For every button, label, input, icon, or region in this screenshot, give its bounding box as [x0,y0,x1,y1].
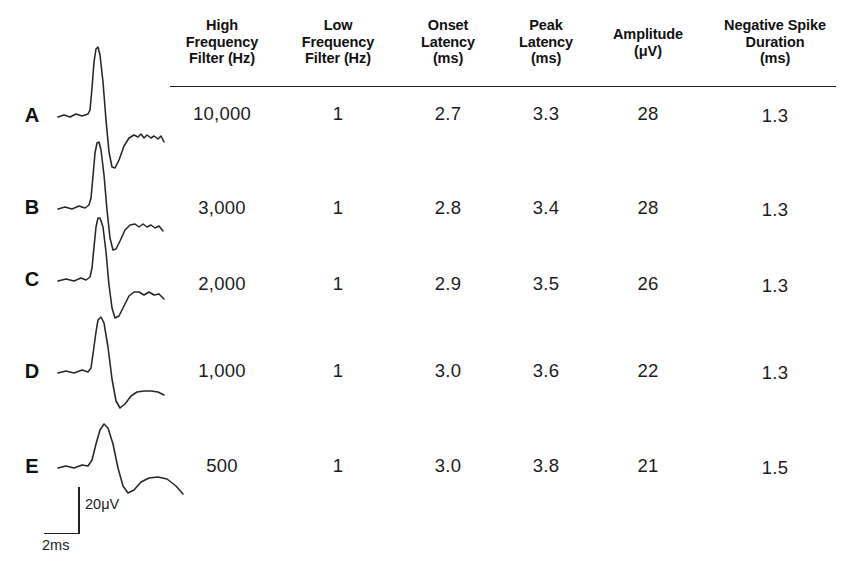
cell-d-onset-latency: 3.0 [435,361,461,381]
cell-b-high-frequency-filter: 3,000 [198,198,245,218]
column-header-high-frequency-filter: High Frequency Filter (Hz) [162,17,282,67]
row-label-c: C [25,268,39,291]
scalebar-vertical-line [78,487,80,534]
cell-e-negative-spike-duration: 1.5 [762,458,788,478]
scalebar-time-label: 2ms [42,537,69,553]
cell-b-amplitude: 28 [638,198,659,218]
cell-a-high-frequency-filter: 10,000 [193,104,251,124]
row-label-e: E [25,455,38,478]
waveform-trace-a [58,47,164,168]
cell-b-negative-spike-duration: 1.3 [762,200,788,220]
column-header-onset-latency: Onset Latency (ms) [398,17,498,67]
column-header-amplitude: Amplitude (μV) [583,26,713,59]
cell-c-peak-latency: 3.5 [533,274,559,294]
cell-d-amplitude: 22 [638,361,659,381]
cell-e-high-frequency-filter: 500 [206,456,237,476]
cell-b-peak-latency: 3.4 [533,198,559,218]
cell-e-peak-latency: 3.8 [533,456,559,476]
header-divider-rule [170,86,836,87]
cell-a-amplitude: 28 [638,104,659,124]
cell-d-negative-spike-duration: 1.3 [762,363,788,383]
cell-c-onset-latency: 2.9 [435,274,461,294]
column-header-low-frequency-filter: Low Frequency Filter (Hz) [278,17,398,67]
column-header-negative-spike-duration: Negative Spike Duration (ms) [695,17,851,67]
cell-c-low-frequency-filter: 1 [333,274,344,294]
row-label-d: D [25,360,39,383]
scalebar-voltage-label: 20μV [85,496,119,512]
filter-comparison-figure: A B C D E High Frequency Filter (Hz) Low… [0,0,851,572]
column-header-peak-latency: Peak Latency (ms) [496,17,596,67]
row-label-a: A [25,104,39,127]
waveform-trace-e [58,424,183,494]
cell-b-onset-latency: 2.8 [435,198,461,218]
cell-e-amplitude: 21 [638,456,659,476]
cell-e-onset-latency: 3.0 [435,456,461,476]
cell-d-low-frequency-filter: 1 [333,361,344,381]
cell-b-low-frequency-filter: 1 [333,198,344,218]
scalebar-horizontal-line [44,533,80,535]
waveform-trace-c [58,218,164,318]
cell-a-low-frequency-filter: 1 [333,104,344,124]
cell-c-high-frequency-filter: 2,000 [198,274,245,294]
cell-a-onset-latency: 2.7 [435,104,461,124]
row-label-b: B [25,196,39,219]
cell-d-peak-latency: 3.6 [533,361,559,381]
cell-d-high-frequency-filter: 1,000 [198,361,245,381]
cell-e-low-frequency-filter: 1 [333,456,344,476]
cell-c-negative-spike-duration: 1.3 [762,276,788,296]
cell-a-negative-spike-duration: 1.3 [762,106,788,126]
waveform-trace-d [58,317,164,408]
cell-c-amplitude: 26 [638,274,659,294]
cell-a-peak-latency: 3.3 [533,104,559,124]
